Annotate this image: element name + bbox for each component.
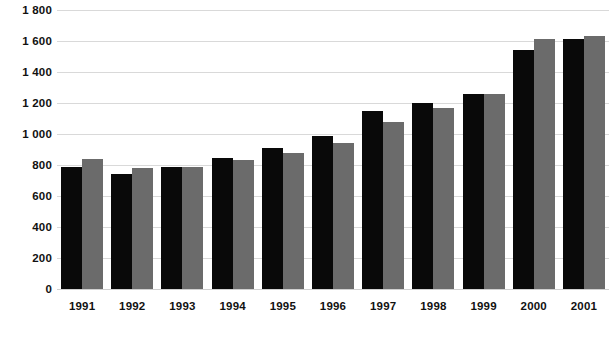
y-axis-tick-label: 1 600 <box>22 35 52 47</box>
y-axis-tick-label: 200 <box>32 252 52 264</box>
x-axis-tick-label: 1999 <box>459 292 509 318</box>
x-axis-tick-label: 1997 <box>358 292 408 318</box>
x-axis-tick-label: 1996 <box>308 292 358 318</box>
bar <box>563 39 584 289</box>
x-axis: 1991199219931994199519961997199819992000… <box>57 292 609 318</box>
bar <box>61 167 82 289</box>
y-axis-tick-label: 800 <box>32 159 52 171</box>
bar <box>262 148 283 289</box>
bar-chart: 02004006008001 0001 2001 4001 6001 800 1… <box>0 0 614 338</box>
bar <box>584 36 605 289</box>
bar <box>513 50 534 289</box>
bar <box>333 143 354 289</box>
bar <box>383 122 404 289</box>
bar <box>182 167 203 289</box>
bar <box>484 94 505 289</box>
x-axis-tick-label: 1995 <box>258 292 308 318</box>
bar <box>212 158 233 289</box>
bar <box>433 108 454 289</box>
x-axis-tick-label: 1994 <box>208 292 258 318</box>
x-axis-tick-label: 1991 <box>57 292 107 318</box>
bar <box>161 167 182 289</box>
bar-group <box>157 10 207 289</box>
bar <box>362 111 383 289</box>
bar-group <box>509 10 559 289</box>
bar <box>283 153 304 289</box>
x-axis-tick-label: 2001 <box>559 292 609 318</box>
bar <box>534 39 555 289</box>
x-axis-tick-label: 2000 <box>509 292 559 318</box>
bar-group <box>408 10 458 289</box>
y-axis-tick-label: 1 400 <box>22 66 52 78</box>
x-axis-tick-label: 1993 <box>157 292 207 318</box>
bar-group <box>208 10 258 289</box>
bars-layer <box>57 10 609 289</box>
bar-group <box>559 10 609 289</box>
y-axis-tick-label: 1 200 <box>22 97 52 109</box>
bar <box>132 168 153 289</box>
bar <box>412 103 433 289</box>
y-axis-tick-label: 0 <box>45 283 52 295</box>
bar-group <box>459 10 509 289</box>
y-axis-tick-label: 400 <box>32 221 52 233</box>
bar <box>463 94 484 289</box>
y-axis-tick-label: 1 800 <box>22 4 52 16</box>
bar-group <box>308 10 358 289</box>
x-axis-tick-label: 1992 <box>107 292 157 318</box>
bar <box>312 136 333 289</box>
bar-group <box>107 10 157 289</box>
y-axis-tick-label: 600 <box>32 190 52 202</box>
plot-area <box>57 10 609 289</box>
y-axis: 02004006008001 0001 2001 4001 6001 800 <box>0 10 52 289</box>
gridline <box>57 289 609 290</box>
x-axis-tick-label: 1998 <box>408 292 458 318</box>
bar <box>111 174 132 289</box>
bar-group <box>358 10 408 289</box>
bar-group <box>258 10 308 289</box>
bar <box>82 159 103 289</box>
bar-group <box>57 10 107 289</box>
bar <box>233 160 254 289</box>
y-axis-tick-label: 1 000 <box>22 128 52 140</box>
